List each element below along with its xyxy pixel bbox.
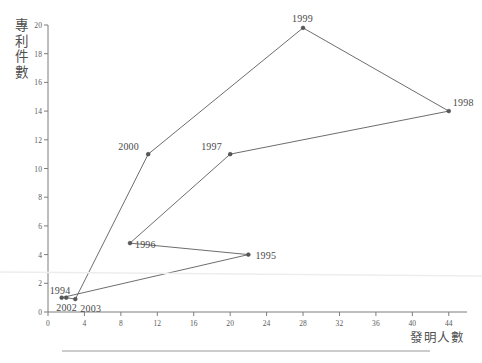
y-tick-label: 0	[26, 308, 42, 317]
data-point-label-1995: 1995	[255, 250, 276, 261]
data-point-label-1996: 1996	[135, 239, 156, 250]
y-tick-label: 18	[26, 49, 42, 58]
x-tick-label: 28	[299, 319, 307, 328]
data-point-marker-1994	[60, 296, 64, 300]
background-artifact-rule	[0, 272, 482, 276]
x-tick-label: 44	[445, 319, 453, 328]
data-point-marker-1996	[128, 241, 132, 245]
y-tick-label: 8	[26, 193, 42, 202]
x-tick-label: 20	[226, 319, 234, 328]
data-point-label-1999: 1999	[292, 13, 313, 24]
x-tick-label: 36	[372, 319, 380, 328]
data-point-label-2002: 2002	[56, 302, 77, 313]
data-point-marker-1995	[246, 253, 250, 257]
y-tick-label: 10	[26, 164, 42, 173]
data-point-marker-2003	[73, 297, 77, 301]
x-tick-label: 40	[408, 319, 416, 328]
data-point-label-1997: 1997	[201, 141, 222, 152]
y-tick-label: 6	[26, 221, 42, 230]
y-tick-label: 2	[26, 279, 42, 288]
x-tick-label: 0	[46, 319, 50, 328]
y-tick-label: 20	[26, 21, 42, 30]
data-point-label-1998: 1998	[453, 97, 474, 108]
x-tick-label: 4	[82, 319, 86, 328]
data-point-marker-2000	[146, 152, 150, 156]
data-point-marker-2002	[64, 296, 68, 300]
y-tick-label: 12	[26, 135, 42, 144]
data-point-label-1994: 1994	[50, 285, 71, 296]
data-point-marker-1999	[301, 26, 305, 30]
x-tick-label: 8	[119, 319, 123, 328]
y-tick-label: 4	[26, 250, 42, 259]
x-tick-label: 24	[263, 319, 271, 328]
data-point-label-2000: 2000	[118, 141, 139, 152]
x-tick-label: 12	[153, 319, 161, 328]
y-tick-label: 16	[26, 78, 42, 87]
y-tick-label: 14	[26, 107, 42, 116]
data-point-marker-1997	[228, 152, 232, 156]
x-tick-label: 16	[190, 319, 198, 328]
data-point-marker-1998	[447, 109, 451, 113]
x-tick-label: 32	[336, 319, 344, 328]
data-point-label-2003: 2003	[80, 303, 101, 314]
patent-inventor-scatter-chart: 專 利 件 數 發明人數 024681012141618200481216202…	[0, 0, 482, 363]
